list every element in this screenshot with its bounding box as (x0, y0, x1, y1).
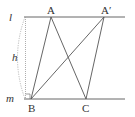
segment-AB (31, 17, 51, 99)
label-point-A-prime: A′ (101, 4, 111, 16)
segment-A-prime-B (31, 17, 104, 99)
segment-A-prime-C (86, 17, 104, 99)
height-bracket (18, 17, 26, 99)
right-angle-marker (26, 94, 31, 99)
label-point-B: B (28, 102, 35, 114)
segment-AC (51, 17, 86, 99)
geometry-diagram: l m h A A′ B C (0, 0, 135, 117)
label-point-C: C (82, 102, 89, 114)
label-line-l: l (9, 11, 12, 23)
label-height-h: h (12, 51, 18, 63)
label-point-A: A (47, 4, 55, 16)
label-line-m: m (6, 92, 14, 104)
